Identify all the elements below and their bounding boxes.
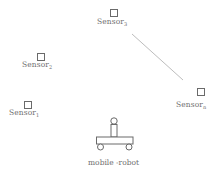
robot-wheel-right-icon — [126, 144, 132, 150]
sensor-2-label-base: Sensor — [22, 60, 49, 69]
mobile-robot-label: mobile -robot — [88, 159, 139, 167]
robot-head-icon — [111, 118, 117, 124]
sensor-1-label-base: Sensor — [9, 108, 36, 117]
mobile-robot-icon — [97, 118, 134, 150]
sensor-2-label-sub: 2 — [49, 64, 52, 70]
sensor-1-label: Sensor1 — [9, 109, 39, 117]
sensor-3-label-base: Sensor — [97, 17, 124, 26]
robot-wheel-left-icon — [98, 144, 104, 150]
sensor-n-label-base: Sensor — [176, 100, 203, 109]
sensor-3-label: Sensor3 — [97, 18, 127, 26]
sensor-3-node-icon — [110, 9, 118, 17]
robot-base-icon — [97, 137, 134, 144]
sensor-n-label: Sensorn — [176, 101, 206, 109]
sensor-2-label: Sensor2 — [22, 61, 52, 69]
sensor-n-label-sub: n — [203, 104, 206, 110]
connection-line — [132, 34, 183, 80]
sensor-3-label-sub: 3 — [124, 21, 127, 27]
robot-body-icon — [111, 125, 117, 138]
sensor-n-node-icon — [197, 88, 205, 96]
sensor-1-label-sub: 1 — [36, 112, 39, 118]
diagram-canvas: Sensor3 Sensor2 Sensor1 Sensorn mobile -… — [0, 0, 218, 177]
diagram-graphics — [0, 0, 218, 177]
